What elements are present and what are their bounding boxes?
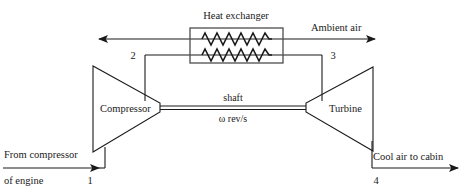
compressor-label: Compressor: [100, 103, 151, 114]
shaft-speed-label: ω rev/s: [219, 113, 248, 124]
state-point-3: 3: [330, 50, 335, 61]
heat-exchanger-label: Heat exchanger: [203, 10, 269, 21]
shaft-label: shaft: [223, 92, 243, 103]
state-point-2: 2: [130, 50, 135, 61]
diagram-canvas: Heat exchanger Ambient air Compressor Tu…: [0, 0, 465, 195]
turbine-label: Turbine: [329, 103, 362, 114]
state-point-1: 1: [87, 175, 92, 186]
air-cycle-schematic: Heat exchanger Ambient air Compressor Tu…: [0, 0, 465, 195]
ambient-air-label: Ambient air: [311, 22, 362, 33]
state-point-4: 4: [373, 175, 379, 186]
outlet-label: Cool air to cabin: [373, 151, 444, 162]
inlet-label-line2: of engine: [4, 175, 44, 186]
inlet-label-line1: From compressor: [4, 149, 78, 160]
